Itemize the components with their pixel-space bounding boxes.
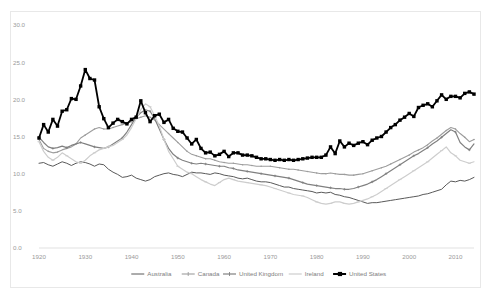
series-marker-united-states: [352, 144, 355, 147]
legend-item-ireland[interactable]: Ireland: [289, 270, 324, 277]
series-marker-canada: [464, 136, 466, 138]
series-marker-united-states: [287, 158, 290, 161]
series-marker-canada: [94, 128, 96, 130]
y-axis-tick-label: 15.0: [13, 133, 26, 140]
series-line-united-kingdom: [39, 110, 474, 190]
legend-item-australia[interactable]: Australia: [131, 270, 172, 277]
series-marker-united-states: [37, 136, 40, 139]
x-axis-tick-label: 1950: [171, 253, 185, 260]
series-marker-united-states: [426, 102, 429, 105]
series-marker-united-states: [370, 139, 373, 142]
series-marker-united-states: [93, 78, 96, 81]
series-marker-united-states: [375, 136, 378, 139]
series-marker-united-states: [190, 142, 193, 145]
legend-item-united-kingdom[interactable]: United Kingdom: [223, 270, 283, 277]
series-marker-united-states: [47, 130, 50, 133]
series-marker-canada: [103, 128, 105, 130]
series-marker-canada: [177, 142, 179, 144]
series-marker-united-states: [167, 118, 170, 121]
legend-label-canada: Canada: [198, 270, 220, 277]
series-marker-united-states: [56, 124, 59, 127]
y-axis-tick-label: 20.0: [13, 96, 26, 103]
series-marker-united-states: [431, 105, 434, 108]
legend-label-united-kingdom: United Kingdom: [239, 270, 283, 277]
series-marker-united-states: [361, 140, 364, 143]
series-marker-united-states: [315, 156, 318, 159]
series-marker-united-states: [130, 118, 133, 121]
series-marker-united-states: [125, 122, 128, 125]
series-marker-united-states: [306, 156, 309, 159]
series-marker-united-states: [134, 115, 137, 118]
series-marker-united-states: [144, 111, 147, 114]
series-marker-canada: [381, 167, 383, 169]
series-marker-united-states: [472, 92, 475, 95]
series-marker-united-states: [292, 159, 295, 162]
x-axis-tick-label: 1940: [125, 253, 139, 260]
series-marker-united-states: [458, 96, 461, 99]
series-marker-united-states: [195, 138, 198, 141]
series-marker-united-states: [329, 145, 332, 148]
series-marker-canada: [149, 116, 151, 118]
series-marker-united-states: [380, 135, 383, 138]
y-axis-tick-label: 0.0: [13, 244, 22, 251]
series-marker-canada: [399, 159, 401, 161]
series-marker-united-states: [343, 145, 346, 148]
series-marker-united-states: [454, 95, 457, 98]
series-marker-united-states: [273, 159, 276, 162]
legend-marker-united-states: [338, 272, 342, 276]
series-marker-canada: [48, 151, 50, 153]
series-marker-canada: [251, 165, 253, 167]
series-marker-united-states: [389, 126, 392, 129]
series-marker-united-states: [148, 120, 151, 123]
series-marker-united-states: [250, 154, 253, 157]
series-marker-united-states: [384, 130, 387, 133]
series-marker-united-states: [88, 77, 91, 80]
legend-item-united-states[interactable]: United States: [333, 270, 386, 277]
series-marker-canada: [418, 149, 420, 151]
series-marker-canada: [223, 162, 225, 164]
chart-card: 0.05.010.015.020.025.030.019201930194019…: [0, 0, 491, 299]
series-marker-canada: [307, 171, 309, 173]
series-marker-united-states: [463, 92, 466, 95]
series-marker-united-states: [283, 159, 286, 162]
series-marker-united-states: [310, 156, 313, 159]
series-marker-united-states: [79, 84, 82, 87]
series-marker-canada: [316, 172, 318, 174]
y-axis-tick-label: 25.0: [13, 59, 26, 66]
x-axis-tick-label: 1960: [217, 253, 231, 260]
series-marker-united-states: [394, 123, 397, 126]
series-marker-united-states: [468, 90, 471, 93]
x-axis-tick-label: 2000: [402, 253, 416, 260]
series-marker-canada: [122, 124, 124, 126]
series-marker-canada: [353, 174, 355, 176]
series-marker-united-states: [51, 118, 54, 121]
series-marker-united-states: [421, 104, 424, 107]
series-marker-united-states: [320, 156, 323, 159]
series-marker-united-states: [218, 153, 221, 156]
series-marker-united-states: [222, 150, 225, 153]
series-marker-united-states: [347, 141, 350, 144]
series-marker-united-states: [366, 143, 369, 146]
series-marker-canada: [362, 173, 364, 175]
series-marker-united-states: [278, 158, 281, 161]
series-marker-united-states: [84, 68, 87, 71]
series-marker-canada: [344, 174, 346, 176]
series-marker-united-states: [412, 115, 415, 118]
series-marker-united-states: [417, 106, 420, 109]
series-marker-canada: [445, 130, 447, 132]
series-marker-canada: [186, 151, 188, 153]
series-marker-canada: [140, 116, 142, 118]
series-marker-canada: [297, 169, 299, 171]
series-marker-united-states: [324, 153, 327, 156]
series-marker-united-states: [333, 152, 336, 155]
legend-item-canada[interactable]: Canada: [182, 270, 220, 277]
series-marker-canada: [408, 154, 410, 156]
series-marker-united-states: [153, 114, 156, 117]
legend-label-ireland: Ireland: [305, 270, 324, 277]
chart-plot-frame: 0.05.010.015.020.025.030.019201930194019…: [10, 11, 481, 288]
x-axis-tick-label: 1990: [356, 253, 370, 260]
series-marker-united-states: [232, 151, 235, 154]
series-marker-united-states: [199, 147, 202, 150]
series-marker-united-states: [408, 112, 411, 115]
series-marker-united-states: [209, 150, 212, 153]
